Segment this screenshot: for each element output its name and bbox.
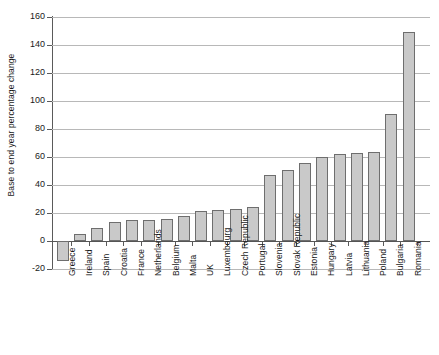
- x-category-label: Malta: [188, 255, 198, 276]
- bar: [368, 152, 380, 241]
- bar: [74, 234, 86, 241]
- x-tick-mark: [348, 241, 349, 246]
- x-tick-mark: [210, 241, 211, 246]
- bar: [195, 211, 207, 241]
- x-category-label: Hungary: [326, 243, 336, 276]
- x-category-label: Latvia: [344, 253, 354, 276]
- x-category-label: UK: [205, 264, 215, 276]
- y-tick-label: 0: [1, 236, 45, 245]
- x-category-label: Spain: [101, 254, 111, 276]
- x-category-label: Belgium: [171, 245, 181, 276]
- bar: [316, 157, 328, 241]
- y-tick-label: 100: [1, 96, 45, 105]
- x-category-label: Estonia: [309, 247, 319, 276]
- x-tick-mark: [123, 241, 124, 246]
- gridline: [52, 73, 430, 74]
- x-category-label: Ireland: [84, 249, 94, 276]
- x-category-label: France: [136, 249, 146, 276]
- x-tick-mark: [192, 241, 193, 246]
- x-category-label: Slovenia: [274, 243, 284, 276]
- y-tick-label: 60: [1, 152, 45, 161]
- bar: [178, 216, 190, 241]
- y-tick-label: 160: [1, 12, 45, 21]
- y-tick-label: 20: [1, 208, 45, 217]
- x-category-label: Lithuania: [361, 241, 371, 276]
- x-category-label: Luxembourg: [222, 228, 232, 276]
- gridline: [52, 101, 430, 102]
- bar: [109, 222, 121, 241]
- x-category-label: Czech Republic: [240, 215, 250, 276]
- x-tick-mark: [314, 241, 315, 246]
- bar: [91, 228, 103, 241]
- x-category-label: Netherlands: [153, 229, 163, 276]
- x-tick-mark: [141, 241, 142, 246]
- bar-chart: Base to end year percentage change -2002…: [0, 0, 439, 355]
- bar: [403, 32, 415, 241]
- bar: [126, 220, 138, 241]
- y-tick-label: -20: [1, 264, 45, 273]
- x-category-label: Greece: [67, 248, 77, 276]
- bar: [351, 153, 363, 241]
- x-tick-mark: [71, 241, 72, 246]
- x-tick-mark: [106, 241, 107, 246]
- x-tick-mark: [89, 241, 90, 246]
- gridline: [52, 45, 430, 46]
- bar: [385, 114, 397, 241]
- x-category-label: Romania: [413, 241, 423, 276]
- y-tick-label: 120: [1, 68, 45, 77]
- gridline: [52, 129, 430, 130]
- bar: [264, 175, 276, 241]
- bar: [334, 154, 346, 242]
- y-tick-label: 140: [1, 40, 45, 49]
- gridline: [52, 17, 430, 18]
- y-tick-label: 80: [1, 124, 45, 133]
- x-category-label: Portugal: [257, 244, 267, 276]
- x-category-label: Croatia: [119, 248, 129, 276]
- x-tick-mark: [383, 241, 384, 246]
- x-category-label: Slovak Republic: [292, 214, 302, 276]
- y-tick-label: 40: [1, 180, 45, 189]
- x-category-label: Bulgaria: [395, 244, 405, 276]
- x-category-label: Poland: [378, 249, 388, 276]
